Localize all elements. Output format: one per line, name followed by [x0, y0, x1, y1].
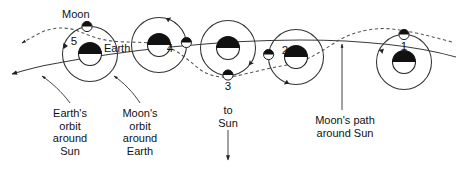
- moon-globe-3: [223, 70, 233, 80]
- moon-globe-4: [181, 37, 191, 47]
- position-number-4: 4: [167, 42, 173, 54]
- orbit-arrowhead-5: [63, 43, 68, 49]
- moon-globe-2: [264, 49, 274, 59]
- position-number-5: 5: [71, 35, 77, 47]
- earth-globe-5: [79, 43, 102, 66]
- earth-label: Earth: [104, 42, 130, 55]
- position-number-2: 2: [282, 44, 288, 56]
- earth-globe-3: [217, 37, 240, 60]
- orbit-arrowhead-3: [249, 60, 254, 65]
- moon-globe-5: [82, 21, 92, 31]
- earth-moon-system-2: [264, 30, 324, 85]
- earth-globe-1: [393, 51, 416, 74]
- diagram-canvas: Moon Earth 5 4 3 2 1 Earth's orbit aroun…: [0, 0, 456, 174]
- earth-moon-system-1: [377, 29, 432, 89]
- leader-earths-orbit: [42, 76, 70, 103]
- earth-moon-system-4: [132, 18, 192, 73]
- earth-moon-system-3: [201, 21, 256, 81]
- moon-globe-1: [399, 29, 409, 39]
- to-sun-label: to Sun: [218, 104, 238, 129]
- position-number-3: 3: [225, 80, 231, 92]
- earths-orbit-around-sun-label: Earth's orbit around Sun: [53, 107, 87, 157]
- moons-orbit-around-earth-label: Moon's orbit around Earth: [122, 107, 157, 157]
- moon-label: Moon: [62, 8, 90, 21]
- leader-moons-orbit: [114, 76, 140, 103]
- position-number-1: 1: [401, 40, 407, 52]
- moons-path-around-sun-label: Moon's path around Sun: [315, 114, 375, 139]
